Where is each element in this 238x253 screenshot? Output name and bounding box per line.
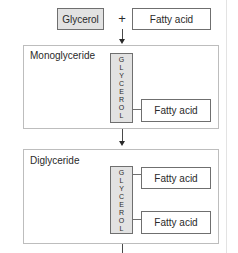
page-edge-rule xyxy=(226,0,227,253)
glycerol-letter: L xyxy=(120,177,124,185)
glycerol-letter: Y xyxy=(119,185,124,193)
fatty-acid-label: Fatty acid xyxy=(154,105,197,116)
glycerol-letter: R xyxy=(119,209,124,217)
glycerol-box: Glycerol xyxy=(57,8,104,30)
plus-sign: + xyxy=(116,9,128,27)
glycerol-letter: O xyxy=(119,217,124,225)
glycerol-bar-di: G L Y C E R O L xyxy=(110,166,133,234)
fatty-acid-label: Fatty acid xyxy=(154,173,197,184)
fatty-acid-box-di-1: Fatty acid xyxy=(141,167,211,189)
fatty-acid-label: Fatty acid xyxy=(154,217,197,228)
glycerol-bar-mono: G L Y C E R O L xyxy=(110,53,133,123)
glycerol-letter: G xyxy=(119,56,124,64)
fatty-acid-box-top: Fatty acid xyxy=(132,8,211,30)
fatty-acid-box-di-2: Fatty acid xyxy=(141,211,211,234)
glycerol-letter: L xyxy=(120,64,124,72)
monoglyceride-title: Monoglyceride xyxy=(30,50,95,61)
bond-line-di-1 xyxy=(133,174,141,175)
glycerol-letter: Y xyxy=(119,72,124,80)
arrow-down-icon xyxy=(119,141,125,146)
glycerol-letter: O xyxy=(119,104,124,112)
arrow-down-icon xyxy=(119,39,125,44)
fatty-acid-label: Fatty acid xyxy=(150,14,193,25)
bond-line-mono xyxy=(133,109,141,110)
bond-line-di-2 xyxy=(133,219,141,220)
diglyceride-title: Diglyceride xyxy=(30,155,79,166)
glycerol-letter: E xyxy=(119,88,124,96)
fatty-acid-box-mono: Fatty acid xyxy=(141,99,211,122)
glycerol-letter: L xyxy=(120,225,124,233)
glycerol-letter: C xyxy=(119,80,124,88)
glycerol-letter: R xyxy=(119,96,124,104)
glycerol-letter: L xyxy=(120,112,124,120)
glycerol-letter: E xyxy=(119,201,124,209)
glycerol-letter: G xyxy=(119,169,124,177)
continuation-line xyxy=(122,244,123,253)
glycerol-label: Glycerol xyxy=(62,14,99,25)
glycerol-letter: C xyxy=(119,193,124,201)
